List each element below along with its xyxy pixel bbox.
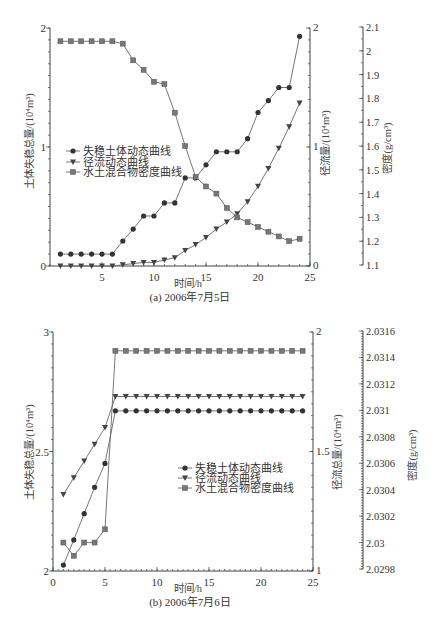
circle-marker-icon <box>131 227 136 232</box>
chart-a: 0120121.11.21.31.41.51.61.71.81.922.1510… <box>23 21 394 304</box>
circle-marker-icon <box>61 562 66 567</box>
density-tick-label: 1.1 <box>366 260 379 271</box>
circle-marker-icon <box>276 85 281 90</box>
density-tick-label: 2.0316 <box>366 326 395 337</box>
circle-marker-icon <box>224 149 229 154</box>
right-tick-label: 1 <box>316 564 322 576</box>
circle-marker-icon <box>258 408 263 413</box>
density-tick-label: 1.3 <box>366 212 379 223</box>
circle-marker-icon <box>162 200 167 205</box>
triangle-marker-icon <box>203 235 209 241</box>
circle-marker-icon <box>102 461 107 466</box>
chart-a-legend: 失稳土体动态曲线 径流动态曲线 水土混合物密度曲线 <box>66 144 182 178</box>
left-tick-label: 2 <box>44 565 50 577</box>
right-tick-label: 1.5 <box>316 445 330 457</box>
circle-marker-icon <box>266 98 271 103</box>
circle-marker-icon <box>238 408 243 413</box>
triangle-marker-icon <box>193 242 199 248</box>
circle-marker-icon <box>113 408 118 413</box>
triangle-marker-icon <box>71 475 77 481</box>
square-marker-icon <box>141 67 146 72</box>
circle-marker-icon <box>68 252 73 257</box>
circle-marker-icon <box>172 200 177 205</box>
chart-a-left-axis-title: 土体失稳总量/(10⁴m³) <box>23 93 36 189</box>
series-density <box>58 39 302 244</box>
circle-marker-icon <box>214 149 219 154</box>
triangle-marker-icon <box>255 184 261 190</box>
square-marker-icon <box>71 553 76 558</box>
x-tick-label: 15 <box>204 576 216 588</box>
left-tick-label: 1 <box>41 141 47 153</box>
left-tick-label: 2.5 <box>35 446 49 458</box>
density-tick-label: 2.1 <box>366 22 379 33</box>
triangle-marker-icon <box>224 219 230 225</box>
circle-marker-icon <box>141 213 146 218</box>
density-tick-label: 1.7 <box>366 117 379 128</box>
square-marker-icon <box>134 348 139 353</box>
circle-marker-icon <box>206 408 211 413</box>
circle-marker-icon <box>175 408 180 413</box>
square-marker-icon <box>113 348 118 353</box>
square-marker-icon <box>131 58 136 63</box>
legend-item-density: 水土混合物密度曲线 <box>66 165 182 178</box>
circle-marker-icon <box>196 408 201 413</box>
legend-label: 水土混合物密度曲线 <box>83 165 182 178</box>
circle-marker-icon <box>99 252 104 257</box>
density-tick-label: 2 <box>366 46 371 57</box>
square-marker-icon <box>266 229 271 234</box>
circle-marker-icon <box>183 175 188 180</box>
circle-marker-icon <box>297 34 302 39</box>
circle-marker-icon <box>217 408 222 413</box>
chart-b-series <box>60 348 305 567</box>
density-tick-label: 2.031 <box>366 405 390 416</box>
x-tick-label: 5 <box>99 271 105 283</box>
circle-marker-icon <box>123 408 128 413</box>
square-marker-icon <box>71 170 76 175</box>
square-marker-icon <box>155 348 160 353</box>
density-tick-label: 2.03 <box>366 538 384 549</box>
triangle-marker-icon <box>182 248 188 254</box>
square-marker-icon <box>92 540 97 545</box>
left-tick-label: 0 <box>41 260 47 272</box>
circle-marker-icon <box>248 408 253 413</box>
square-marker-icon <box>103 527 108 532</box>
x-tick-label: 10 <box>152 576 164 588</box>
circle-marker-icon <box>235 149 240 154</box>
circle-marker-icon <box>92 485 97 490</box>
triangle-marker-icon <box>81 459 87 465</box>
x-tick-label: 5 <box>102 576 108 588</box>
density-tick-label: 1.6 <box>366 141 379 152</box>
chart-b-right-axis-title: 径流总量/(10⁴m³) <box>331 414 344 490</box>
series-right <box>57 100 302 269</box>
triangle-marker-icon <box>92 442 98 448</box>
circle-marker-icon <box>165 408 170 413</box>
square-marker-icon <box>248 348 253 353</box>
chart-b-x-axis-title: 时间/h <box>174 582 203 594</box>
square-marker-icon <box>290 348 295 353</box>
square-marker-icon <box>175 348 180 353</box>
right-tick-label: 2 <box>316 325 322 337</box>
circle-marker-icon <box>89 252 94 257</box>
chart-b-legend: 失稳土体动态曲线 径流动态曲线 水土混合物密度曲线 <box>178 461 294 494</box>
circle-marker-icon <box>134 408 139 413</box>
circle-marker-icon <box>290 408 295 413</box>
legend-label: 水土混合物密度曲线 <box>195 481 294 494</box>
square-marker-icon <box>79 39 84 44</box>
chart-b: 22.5311.522.02982.032.03022.03042.03062.… <box>23 325 419 609</box>
square-marker-icon <box>227 348 232 353</box>
circle-marker-icon <box>186 408 191 413</box>
circle-marker-icon <box>245 136 250 141</box>
triangle-marker-icon <box>286 124 292 130</box>
chart-a-density-axis-title: 密度(g/cm³) <box>381 122 394 174</box>
density-tick-label: 1.5 <box>366 165 379 176</box>
triangle-marker-icon <box>60 492 66 498</box>
square-marker-icon <box>196 348 201 353</box>
triangle-marker-icon <box>276 146 282 152</box>
square-marker-icon <box>224 205 229 210</box>
x-tick-label: 0 <box>50 576 56 588</box>
square-marker-icon <box>82 540 87 545</box>
square-marker-icon <box>235 215 240 220</box>
series-line <box>60 103 299 266</box>
square-marker-icon <box>183 144 188 149</box>
square-marker-icon <box>217 348 222 353</box>
